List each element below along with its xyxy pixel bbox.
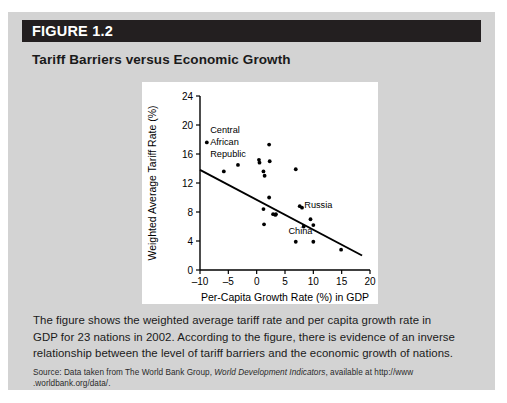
point-annotation: Central [210, 125, 240, 135]
point-annotation: African [210, 137, 239, 147]
point-annotation: China [288, 226, 313, 236]
figure-title: Tariff Barriers versus Economic Growth [32, 52, 291, 67]
scatter-plot-panel: 04812162024–10–505101520 CentralAfricanR… [142, 82, 378, 304]
data-point [205, 141, 209, 145]
data-point [236, 163, 240, 167]
data-point [258, 161, 262, 165]
data-point [263, 174, 267, 178]
plot-axes: 04812162024–10–505101520 [182, 91, 376, 287]
source-line-2: .worldbank.org/data/. [33, 379, 485, 390]
y-tick-label: 20 [182, 120, 194, 131]
x-tick-label: –5 [223, 276, 235, 287]
x-tick-label: 5 [282, 276, 288, 287]
point-annotation: Russia [304, 200, 333, 210]
y-axis-title: Weighted Average Tariff Rate (%) [146, 105, 158, 260]
data-point [311, 240, 315, 244]
data-point [267, 196, 271, 200]
axis-titles: Per-Capita Growth Rate (%) in GDPWeighte… [146, 105, 369, 303]
y-tick-label: 16 [182, 149, 194, 160]
source-prefix: Source: Data taken from The World Bank G… [33, 368, 214, 377]
data-point [268, 159, 272, 163]
data-point [294, 240, 298, 244]
y-tick-label: 0 [187, 265, 193, 276]
caption-line-3: relationship between the level of tariff… [33, 345, 479, 362]
x-tick-label: –10 [192, 276, 209, 287]
x-tick-label: 10 [308, 276, 320, 287]
point-annotation: Republic [210, 149, 246, 159]
data-point [267, 143, 271, 147]
data-point [262, 222, 266, 226]
figure-number-label: FIGURE 1.2 [32, 23, 113, 39]
figure-caption: The figure shows the weighted average ta… [33, 312, 479, 362]
scatter-plot-svg: 04812162024–10–505101520 CentralAfricanR… [142, 82, 378, 304]
caption-line-2: GDP for 23 nations in 2002. According to… [33, 329, 479, 346]
figure-container: FIGURE 1.2 Tariff Barriers versus Econom… [8, 12, 495, 390]
y-tick-label: 8 [187, 207, 193, 218]
data-point [339, 248, 343, 252]
data-point [274, 212, 278, 216]
x-tick-label: 15 [336, 276, 348, 287]
x-tick-label: 0 [254, 276, 260, 287]
y-tick-label: 24 [182, 91, 194, 102]
source-publication-title: World Development Indicators [214, 368, 325, 377]
y-tick-label: 4 [187, 236, 193, 247]
figure-header-bar: FIGURE 1.2 [22, 20, 481, 42]
point-annotations: CentralAfricanRepublicRussiaChina [210, 125, 333, 235]
trend-line [200, 170, 362, 256]
source-line-1: Source: Data taken from The World Bank G… [33, 368, 485, 379]
data-point [262, 170, 266, 174]
data-point [309, 217, 313, 221]
regression-line [200, 170, 362, 256]
y-tick-label: 12 [182, 178, 194, 189]
source-suffix: , available at http://www [325, 368, 413, 377]
data-point [262, 207, 266, 211]
caption-line-1: The figure shows the weighted average ta… [33, 312, 479, 329]
data-point [294, 167, 298, 171]
figure-source: Source: Data taken from The World Bank G… [33, 368, 485, 389]
x-tick-label: 20 [364, 276, 376, 287]
data-point [222, 170, 226, 174]
x-axis-title: Per-Capita Growth Rate (%) in GDP [201, 291, 369, 303]
